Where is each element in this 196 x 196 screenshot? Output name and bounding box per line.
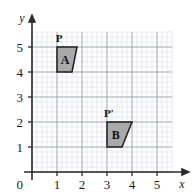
y-tick-label: 3 [17,90,24,105]
y-axis-label: y [18,11,25,25]
axis-ticks [28,47,157,176]
x-tick-label: 1 [54,177,61,192]
coordinate-grid-figure: 1234512345 APBP′ x y 0 [0,0,196,196]
vertex-label-b: P′ [104,107,114,119]
y-tick-label: 2 [17,115,24,130]
y-tick-label: 4 [17,65,24,80]
shape-label-b: B [112,128,120,142]
minor-gridlines [32,32,172,172]
axis-tick-labels: 1234512345 [17,40,161,193]
x-tick-label: 4 [129,177,136,192]
shape-label-a: A [61,53,70,67]
x-tick-label: 2 [79,177,86,192]
x-axis-label: x [178,177,185,191]
origin-label: 0 [17,177,24,192]
y-tick-label: 5 [17,40,24,55]
figure-svg: 1234512345 APBP′ x y 0 [0,0,196,196]
x-tick-label: 5 [154,177,161,192]
vertex-label-a: P [56,32,63,44]
y-tick-label: 1 [17,140,24,155]
x-tick-label: 3 [104,177,111,192]
axes [24,22,182,180]
